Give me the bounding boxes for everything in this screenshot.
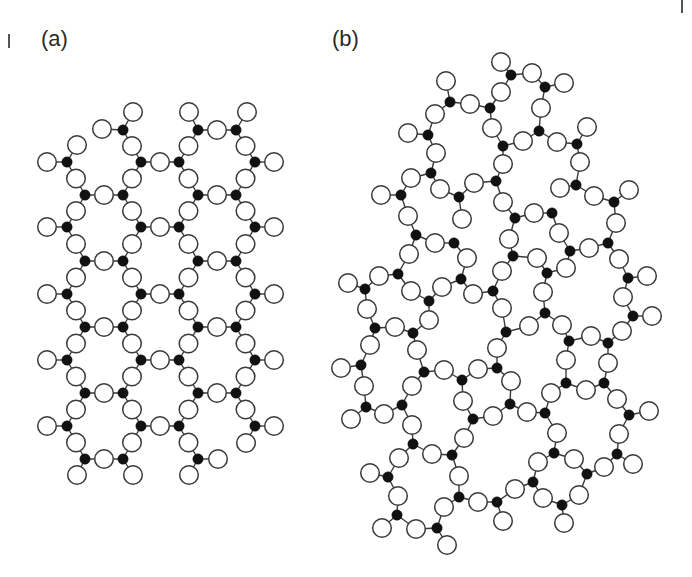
oxygen-atom-icon — [236, 235, 255, 254]
silicon-atom-icon — [540, 308, 550, 318]
silicon-atom-icon — [447, 450, 457, 460]
oxygen-atom-icon — [67, 301, 86, 320]
silicon-atom-icon — [136, 355, 146, 365]
silicon-atom-icon — [623, 273, 633, 283]
panel-b-label: (b) — [332, 28, 359, 50]
silicon-atom-icon — [80, 256, 90, 266]
oxygen-atom-icon — [93, 120, 112, 139]
silicon-atom-icon — [193, 322, 203, 332]
oxygen-atom-icon — [610, 250, 629, 269]
silicon-atom-icon — [540, 82, 550, 92]
silicon-atom-icon — [356, 360, 366, 370]
oxygen-atom-icon — [38, 218, 57, 237]
silicon-atom-icon — [564, 336, 574, 346]
oxygen-atom-icon — [571, 153, 590, 172]
oxygen-atom-icon — [355, 377, 374, 396]
oxygen-atom-icon — [375, 405, 394, 424]
oxygen-atom-icon — [179, 334, 198, 353]
silicon-atom-icon — [136, 157, 146, 167]
oxygen-atom-icon — [426, 105, 445, 124]
panel-b-amorphous-network — [332, 53, 662, 555]
oxygen-atom-icon — [236, 301, 255, 320]
silicon-atom-icon — [174, 289, 184, 299]
silicon-atom-icon — [557, 500, 567, 510]
oxygen-atom-icon — [151, 153, 170, 172]
silicon-atom-icon — [456, 274, 466, 284]
silicon-atom-icon — [360, 284, 370, 294]
silicon-atom-icon — [603, 238, 613, 248]
oxygen-atom-icon — [179, 367, 198, 386]
oxygen-atom-icon — [361, 464, 380, 483]
silicon-atom-icon — [411, 230, 421, 240]
oxygen-atom-icon — [67, 202, 86, 221]
silicon-atom-icon — [118, 256, 128, 266]
oxygen-atom-icon — [450, 467, 469, 486]
silicon-atom-icon — [80, 322, 90, 332]
silicon-atom-icon — [80, 190, 90, 200]
oxygen-atom-icon — [208, 252, 227, 271]
oxygen-atom-icon — [582, 327, 601, 346]
oxygen-atom-icon — [123, 400, 142, 419]
silicon-atom-icon — [250, 157, 260, 167]
silicon-atom-icon — [231, 190, 241, 200]
oxygen-atom-icon — [548, 133, 567, 152]
crop-mark — [8, 34, 10, 48]
oxygen-atom-icon — [95, 318, 114, 337]
oxygen-atom-icon — [454, 392, 473, 411]
oxygen-atom-icon — [67, 235, 86, 254]
oxygen-atom-icon — [570, 486, 589, 505]
oxygen-atom-icon — [151, 417, 170, 436]
oxygen-atom-icon — [438, 536, 457, 555]
oxygen-atom-icon — [399, 207, 418, 226]
silicon-atom-icon — [396, 190, 406, 200]
oxygen-atom-icon — [95, 252, 114, 271]
silica-network-figure — [0, 0, 692, 577]
oxygen-atom-icon — [208, 318, 227, 337]
oxygen-atom-icon — [179, 235, 198, 254]
silicon-atom-icon — [426, 168, 436, 178]
silicon-atom-icon — [424, 296, 434, 306]
silicon-atom-icon — [62, 421, 72, 431]
oxygen-atom-icon — [151, 218, 170, 237]
oxygen-atom-icon — [123, 235, 142, 254]
oxygen-atom-icon — [610, 425, 629, 444]
silicon-atom-icon — [492, 363, 502, 373]
silicon-atom-icon — [393, 269, 403, 279]
oxygen-atom-icon — [386, 318, 405, 337]
oxygen-atom-icon — [455, 429, 474, 448]
silicon-atom-icon — [383, 472, 393, 482]
oxygen-atom-icon — [555, 74, 574, 93]
silicon-atom-icon — [540, 408, 550, 418]
oxygen-atom-icon — [453, 210, 472, 229]
oxygen-atom-icon — [95, 450, 114, 469]
silicon-atom-icon — [603, 338, 613, 348]
silicon-atom-icon — [528, 477, 538, 487]
silicon-atom-icon — [397, 400, 407, 410]
oxygen-atom-icon — [68, 466, 87, 485]
oxygen-atom-icon — [520, 317, 539, 336]
silicon-atom-icon — [423, 130, 433, 140]
oxygen-atom-icon — [390, 449, 409, 468]
silicon-atom-icon — [62, 222, 72, 232]
oxygen-atom-icon — [179, 202, 198, 221]
oxygen-atom-icon — [370, 267, 389, 286]
oxygen-atom-icon — [403, 377, 422, 396]
silicon-atom-icon — [250, 421, 260, 431]
oxygen-atom-icon — [640, 402, 659, 421]
oxygen-atom-icon — [67, 268, 86, 287]
oxygen-atom-icon — [493, 299, 512, 318]
silicon-atom-icon — [231, 388, 241, 398]
oxygen-atom-icon — [68, 136, 87, 155]
oxygen-atom-icon — [123, 202, 142, 221]
silicon-atom-icon — [534, 126, 544, 136]
silicon-atom-icon — [231, 125, 241, 135]
oxygen-atom-icon — [38, 285, 57, 304]
oxygen-atom-icon — [431, 180, 450, 199]
oxygen-atom-icon — [534, 489, 553, 508]
oxygen-atom-icon — [67, 400, 86, 419]
silicon-atom-icon — [136, 222, 146, 232]
oxygen-atom-icon — [236, 400, 255, 419]
silicon-atom-icon — [118, 125, 128, 135]
oxygen-atom-icon — [643, 307, 662, 326]
oxygen-atom-icon — [373, 519, 392, 538]
